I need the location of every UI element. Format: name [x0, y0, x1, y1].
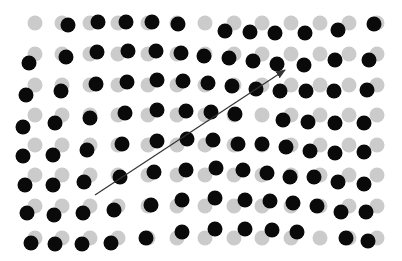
diagram-canvas	[0, 0, 402, 261]
reference-site-dot	[255, 108, 270, 123]
reference-site-dot	[255, 16, 270, 31]
displaced-particle-dot	[145, 15, 160, 30]
displaced-particle-dot	[179, 163, 194, 178]
displaced-particle-dot	[175, 193, 190, 208]
displaced-particle-dot	[46, 148, 61, 163]
displaced-particle-dot	[75, 237, 90, 252]
displaced-particle-dot	[208, 191, 223, 206]
displaced-particle-dot	[24, 236, 39, 251]
reference-site-dot	[313, 16, 328, 31]
reference-site-dot	[198, 16, 213, 31]
displaced-particle-dot	[180, 132, 195, 147]
displaced-particle-dot	[46, 178, 61, 193]
displaced-particle-dot	[16, 149, 31, 164]
displaced-particle-dot	[357, 145, 372, 160]
displaced-particle-dot	[328, 116, 343, 131]
displaced-particle-dot	[120, 75, 135, 90]
displaced-particle-dot	[201, 76, 216, 91]
displaced-particle-dot	[298, 26, 313, 41]
displaced-particle-dot	[310, 199, 325, 214]
displaced-particle-dot	[357, 116, 372, 131]
displaced-particle-dot	[149, 44, 164, 59]
displaced-particle-dot	[270, 57, 285, 72]
displaced-particle-dot	[303, 144, 318, 159]
displaced-particle-dot	[118, 106, 133, 121]
displaced-particle-dot	[104, 236, 119, 251]
displaced-particle-dot	[150, 73, 165, 88]
reference-site-dot	[313, 231, 328, 246]
displaced-particle-dot	[175, 225, 190, 240]
displaced-particle-dot	[16, 120, 31, 135]
displaced-particle-dot	[263, 194, 278, 209]
displaced-particle-dot	[150, 103, 165, 118]
displaced-particle-dot	[208, 222, 223, 237]
displaced-particle-dot	[218, 24, 233, 39]
background	[0, 0, 402, 261]
displaced-particle-dot	[176, 74, 191, 89]
reference-site-dot	[28, 16, 43, 31]
displaced-particle-dot	[359, 205, 374, 220]
displaced-particle-dot	[276, 113, 291, 128]
reference-site-dot	[313, 47, 328, 62]
displaced-particle-dot	[283, 170, 298, 185]
displaced-particle-dot	[90, 45, 105, 60]
displaced-particle-dot	[328, 146, 343, 161]
displaced-particle-dot	[255, 137, 270, 152]
displaced-particle-dot	[290, 225, 305, 240]
reference-site-dot	[342, 47, 357, 62]
displaced-particle-dot	[307, 170, 322, 185]
reference-site-dot	[370, 168, 385, 183]
displaced-particle-dot	[18, 178, 33, 193]
reference-site-dot	[370, 138, 385, 153]
displaced-particle-dot	[83, 111, 98, 126]
displaced-particle-dot	[209, 161, 224, 176]
displaced-particle-dot	[179, 104, 194, 119]
displaced-particle-dot	[59, 50, 74, 65]
displaced-particle-dot	[139, 231, 154, 246]
reference-site-dot	[313, 78, 328, 93]
displaced-particle-dot	[77, 175, 92, 190]
reference-site-dot	[28, 108, 43, 123]
displaced-particle-dot	[91, 15, 106, 30]
reference-site-dot	[342, 138, 357, 153]
displaced-particle-dot	[286, 196, 301, 211]
displaced-particle-dot	[299, 84, 314, 99]
displaced-particle-dot	[231, 137, 246, 152]
displaced-particle-dot	[265, 223, 280, 238]
displaced-particle-dot	[22, 56, 37, 71]
reference-site-dot	[342, 78, 357, 93]
displaced-particle-dot	[197, 49, 212, 64]
lattice-displacement-diagram	[0, 0, 402, 261]
reference-site-dot	[370, 108, 385, 123]
displaced-particle-dot	[147, 165, 162, 180]
displaced-particle-dot	[273, 84, 288, 99]
displaced-particle-dot	[361, 234, 376, 249]
reference-site-dot	[28, 138, 43, 153]
displaced-particle-dot	[61, 18, 76, 33]
displaced-particle-dot	[360, 83, 375, 98]
displaced-particle-dot	[206, 133, 221, 148]
displaced-particle-dot	[204, 105, 219, 120]
displaced-particle-dot	[228, 107, 243, 122]
displaced-particle-dot	[48, 237, 63, 252]
displaced-particle-dot	[121, 44, 136, 59]
displaced-particle-dot	[367, 17, 382, 32]
displaced-particle-dot	[238, 222, 253, 237]
displaced-particle-dot	[89, 77, 104, 92]
displaced-particle-dot	[171, 17, 186, 32]
displaced-particle-dot	[107, 203, 122, 218]
displaced-particle-dot	[268, 26, 283, 41]
displaced-particle-dot	[362, 53, 377, 68]
displaced-particle-dot	[174, 46, 189, 61]
displaced-particle-dot	[238, 193, 253, 208]
displaced-particle-dot	[54, 84, 69, 99]
displaced-particle-dot	[80, 143, 95, 158]
displaced-particle-dot	[339, 231, 354, 246]
displaced-particle-dot	[243, 25, 258, 40]
displaced-particle-dot	[150, 134, 165, 149]
displaced-particle-dot	[297, 58, 312, 73]
displaced-particle-dot	[48, 116, 63, 131]
displaced-particle-dot	[246, 54, 261, 69]
displaced-particle-dot	[76, 206, 91, 221]
displaced-particle-dot	[327, 84, 342, 99]
